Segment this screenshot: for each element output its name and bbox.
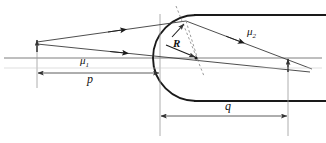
incident-ray-lower-arrowhead	[110, 52, 126, 54]
radius-arrow-outward	[166, 45, 195, 57]
label-mu2: μ2	[247, 26, 256, 40]
center-of-curvature-point	[195, 57, 198, 60]
label-q: q	[225, 100, 231, 112]
label-mu1: μ1	[80, 55, 89, 69]
radius-arrow-inward	[172, 24, 184, 37]
label-R: R	[173, 38, 180, 49]
refracted-ray-arrowhead	[226, 36, 242, 42]
optics-diagram-figure: μ1 μ2 p q R	[0, 0, 326, 143]
label-mu2-subscript: 2	[253, 32, 257, 40]
label-mu1-subscript: 1	[86, 61, 90, 69]
incident-ray-upper-arrowhead	[108, 30, 124, 32]
optics-diagram-canvas	[0, 0, 326, 143]
label-p: p	[87, 73, 93, 85]
